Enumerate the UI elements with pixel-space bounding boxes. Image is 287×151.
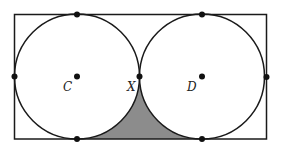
point-x xyxy=(137,74,143,80)
point-right-tangent xyxy=(264,74,270,80)
diagram: C X D xyxy=(0,0,287,151)
point-bottom-c xyxy=(74,136,80,142)
label-x: X xyxy=(126,80,136,94)
shaded-region xyxy=(77,77,202,139)
point-top-d xyxy=(199,12,205,18)
point-top-c xyxy=(74,12,80,18)
point-left-tangent xyxy=(12,74,18,80)
label-c: C xyxy=(63,80,72,94)
point-d-center xyxy=(199,74,205,80)
point-c-center xyxy=(74,74,80,80)
label-d: D xyxy=(186,80,197,94)
point-bottom-d xyxy=(199,136,205,142)
